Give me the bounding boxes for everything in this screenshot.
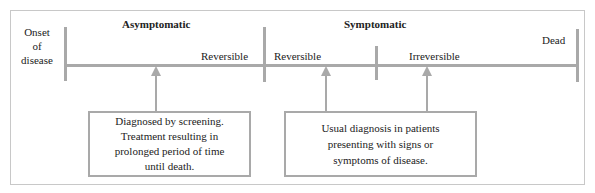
start-tick bbox=[64, 27, 67, 81]
symptomatic-label: Symptomatic bbox=[344, 18, 406, 31]
box-line: Treatment resulting in bbox=[121, 129, 218, 144]
onset-word: Onset bbox=[14, 25, 60, 39]
reversible-label-1: Reversible bbox=[201, 50, 248, 63]
box-line: prolonged period of time bbox=[115, 144, 225, 159]
reversible-label-2: Reversible bbox=[274, 50, 321, 63]
of-word: of bbox=[14, 39, 60, 53]
phase-divider-tick bbox=[263, 27, 266, 82]
disease-word: disease bbox=[14, 53, 60, 67]
asymptomatic-label: Asymptomatic bbox=[122, 18, 190, 31]
dead-label: Dead bbox=[542, 34, 565, 47]
arrow-shaft-usual bbox=[325, 75, 327, 112]
box-line: Diagnosed by screening. bbox=[115, 114, 223, 129]
box-line: until death. bbox=[145, 159, 195, 174]
box-line: symptoms of disease. bbox=[333, 152, 427, 168]
reversibility-divider-tick bbox=[375, 46, 378, 80]
box-line: Usual diagnosis in patients bbox=[321, 120, 439, 136]
irreversible-label: Irreversible bbox=[409, 50, 460, 63]
onset-of-disease-label: Onset of disease bbox=[14, 25, 60, 67]
arrow-shaft-irreversible bbox=[426, 75, 428, 112]
arrow-shaft-screening bbox=[155, 75, 157, 112]
end-tick bbox=[576, 29, 579, 82]
usual-diagnosis-box: Usual diagnosis in patients presenting w… bbox=[284, 111, 477, 177]
screening-diagnosis-box: Diagnosed by screening. Treatment result… bbox=[88, 111, 251, 177]
box-line: presenting with signs or bbox=[328, 136, 433, 152]
